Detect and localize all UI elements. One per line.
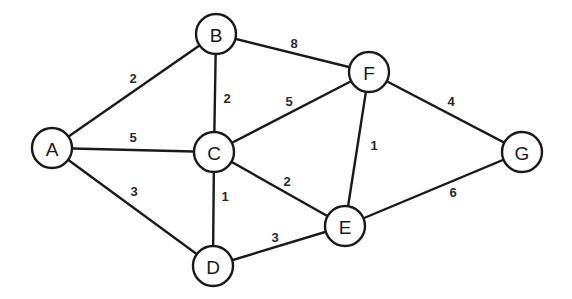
- node-label-d: D: [206, 257, 220, 278]
- node-e: E: [325, 206, 365, 246]
- edge-weight-f-e: 1: [370, 138, 377, 153]
- edge-weight-b-f: 8: [290, 36, 297, 51]
- node-b: B: [196, 14, 236, 54]
- edge-a-d: [52, 148, 213, 266]
- node-label-c: C: [207, 143, 221, 164]
- node-d: D: [193, 246, 233, 286]
- edge-weight-c-e: 2: [283, 174, 290, 189]
- node-label-f: F: [363, 63, 375, 84]
- node-label-b: B: [210, 25, 223, 46]
- graph-diagram: 253285123146 ABCDEFG: [0, 0, 572, 299]
- edge-weights-layer: 253285123146: [129, 36, 456, 245]
- node-c: C: [194, 132, 234, 172]
- node-label-a: A: [46, 139, 59, 160]
- edge-weight-a-c: 5: [129, 130, 136, 145]
- edge-weight-a-d: 3: [130, 184, 137, 199]
- edge-weight-f-g: 4: [447, 94, 455, 109]
- edge-weight-c-f: 5: [285, 94, 292, 109]
- node-label-e: E: [339, 217, 352, 238]
- node-label-g: G: [515, 143, 530, 164]
- edge-e-g: [345, 152, 522, 226]
- edge-weight-c-d: 1: [221, 189, 228, 204]
- edge-a-c: [52, 148, 214, 152]
- node-f: F: [349, 52, 389, 92]
- edge-c-f: [214, 72, 369, 152]
- node-a: A: [32, 128, 72, 168]
- edge-f-g: [369, 72, 522, 152]
- edge-weight-e-g: 6: [449, 185, 456, 200]
- edge-weight-b-c: 2: [223, 91, 230, 106]
- edge-c-e: [214, 152, 345, 226]
- node-g: G: [502, 132, 542, 172]
- edge-weight-d-e: 3: [271, 230, 278, 245]
- edges-layer: [52, 34, 522, 266]
- edge-weight-a-b: 2: [129, 71, 136, 86]
- edge-f-e: [345, 72, 369, 226]
